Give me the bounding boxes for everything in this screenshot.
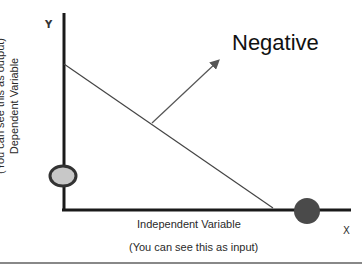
x-axis-letter: X bbox=[343, 225, 350, 236]
normal-arrow bbox=[152, 62, 217, 123]
x-intercept-marker bbox=[294, 198, 320, 224]
y-axis-label-group: Dependent Variable (You can see this as … bbox=[0, 0, 50, 267]
diagram-title: Negative bbox=[232, 30, 319, 56]
y-axis-note: (You can see this as output) bbox=[0, 6, 6, 206]
negative-slope-line bbox=[64, 64, 273, 208]
y-intercept-marker bbox=[50, 166, 76, 186]
x-axis-note: (You can see this as input) bbox=[129, 241, 258, 253]
y-axis-label: Dependent Variable bbox=[8, 6, 20, 206]
x-axis-label: Independent Variable bbox=[137, 218, 241, 230]
